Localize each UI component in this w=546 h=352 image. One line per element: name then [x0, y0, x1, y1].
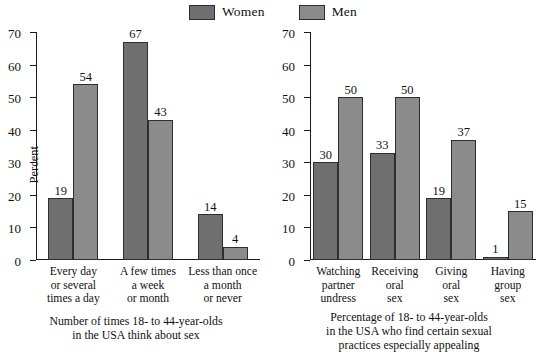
- bar-groups-left: 19546743144: [36, 32, 260, 260]
- category-label-line: Having: [481, 265, 536, 279]
- category-label-line: undress: [311, 292, 366, 306]
- bar-group: 1954: [36, 32, 111, 260]
- bar-women[interactable]: 33: [370, 153, 395, 260]
- bar-value-label: 37: [458, 126, 471, 139]
- bar-value-label: 19: [433, 185, 446, 198]
- bar-slot-women: 67: [123, 32, 148, 260]
- bar-value-label: 14: [204, 201, 217, 214]
- bar-group: 115: [480, 32, 537, 260]
- category-labels-left: Every dayor severaltimes a dayA few time…: [36, 265, 260, 306]
- bar-value-label: 43: [154, 106, 167, 119]
- category-label-line: Every day: [37, 265, 110, 279]
- bar-women[interactable]: 30: [313, 162, 338, 260]
- bar-slot-men: 50: [338, 32, 363, 260]
- bar-slot-men: 37: [451, 32, 476, 260]
- bar-group: 1937: [423, 32, 480, 260]
- y-axis-tick-label: 0: [289, 255, 296, 268]
- caption-line-1: Number of times 18- to 44-year-olds: [8, 314, 264, 328]
- bar-women[interactable]: 67: [123, 42, 148, 260]
- category-label: A few timesa weekor month: [111, 265, 186, 306]
- bar-value-label: 50: [345, 84, 358, 97]
- bar-value-label: 1: [492, 243, 498, 256]
- category-label-line: times a day: [37, 292, 110, 306]
- category-label-line: a month: [186, 279, 259, 293]
- category-label-line: sex: [424, 292, 479, 306]
- bar-men[interactable]: 50: [338, 97, 363, 260]
- bar-value-label: 4: [232, 233, 238, 246]
- bar-women[interactable]: 14: [198, 214, 223, 260]
- y-axis-tick-label: 20: [282, 189, 295, 202]
- bar-group: 3050: [310, 32, 367, 260]
- legend-swatch-women-icon: [189, 5, 215, 20]
- panel-caption-right: Percentage of 18- to 44-year-olds in the…: [272, 310, 546, 352]
- category-label-line: Less than once: [186, 265, 259, 279]
- bar-men[interactable]: 37: [451, 140, 476, 261]
- bar-group: 3350: [367, 32, 424, 260]
- y-axis-tick-label: 50: [282, 92, 295, 105]
- category-label-line: A few times: [112, 265, 185, 279]
- bar-slot-men: 4: [223, 32, 248, 260]
- bar-slot-men: 50: [395, 32, 420, 260]
- bar-slot-women: 30: [313, 32, 338, 260]
- bar-group: 144: [185, 32, 260, 260]
- plot-area-left: Percent 706050403020100 19546743144: [36, 32, 260, 260]
- category-label-line: or month: [112, 292, 185, 306]
- chart-legend: Women Men: [0, 2, 546, 22]
- category-label-line: Receiving: [368, 265, 423, 279]
- bar-women[interactable]: 1: [483, 257, 508, 260]
- bar-group: 6743: [111, 32, 186, 260]
- category-label-line: group: [481, 279, 536, 293]
- bar-slot-men: 43: [148, 32, 173, 260]
- y-axis-tick-label: 50: [8, 92, 21, 105]
- legend-swatch-men-icon: [299, 5, 325, 20]
- y-axis-tick-label: 0: [15, 255, 22, 268]
- y-axis-tick-label: 20: [8, 189, 21, 202]
- caption-line-1: Percentage of 18- to 44-year-olds: [280, 310, 538, 324]
- bar-men[interactable]: 43: [148, 120, 173, 260]
- bar-value-label: 67: [129, 28, 142, 41]
- y-axis-tick-label: 10: [8, 222, 21, 235]
- panel-caption-left: Number of times 18- to 44-year-olds in t…: [0, 314, 272, 342]
- bar-slot-women: 1: [483, 32, 508, 260]
- bar-men[interactable]: 15: [508, 211, 533, 260]
- category-label-line: oral: [424, 279, 479, 293]
- y-axis-tick-label: 60: [8, 59, 21, 72]
- bar-groups-right: 305033501937115: [310, 32, 536, 260]
- category-label-line: sex: [368, 292, 423, 306]
- y-axis-tick-label: 10: [282, 222, 295, 235]
- bar-value-label: 33: [376, 139, 389, 152]
- bar-women[interactable]: 19: [48, 198, 73, 260]
- category-label: Givingoralsex: [423, 265, 480, 306]
- y-axis-tick: 0: [30, 260, 36, 261]
- category-label-line: oral: [368, 279, 423, 293]
- y-axis-tick-label: 40: [8, 124, 21, 137]
- y-axis-tick: 0: [304, 260, 310, 261]
- bar-slot-men: 54: [73, 32, 98, 260]
- category-label: Havinggroupsex: [480, 265, 537, 306]
- bar-men[interactable]: 54: [73, 84, 98, 260]
- y-axis-tick-label: 70: [282, 27, 295, 40]
- legend-item-men: Men: [299, 4, 357, 20]
- plot-area-right: 706050403020100 305033501937115: [310, 32, 536, 260]
- bar-value-label: 19: [55, 185, 68, 198]
- category-label: Less than oncea monthor never: [185, 265, 260, 306]
- legend-label-women: Women: [222, 4, 265, 20]
- category-label: Every dayor severaltimes a day: [36, 265, 111, 306]
- category-label-line: or never: [186, 292, 259, 306]
- bar-women[interactable]: 19: [426, 198, 451, 260]
- y-axis-tick-label: 30: [282, 157, 295, 170]
- bar-slot-women: 33: [370, 32, 395, 260]
- y-axis-tick-label: 30: [8, 157, 21, 170]
- category-label: Watchingpartnerundress: [310, 265, 367, 306]
- bar-slot-women: 19: [48, 32, 73, 260]
- y-axis-tick-label: 60: [282, 59, 295, 72]
- chart-panel-left: Percent 706050403020100 19546743144 Ever…: [0, 22, 272, 348]
- legend-label-men: Men: [332, 4, 357, 20]
- bar-men[interactable]: 50: [395, 97, 420, 260]
- caption-line-3: practices especially appealing: [280, 338, 538, 352]
- category-label-line: a week: [112, 279, 185, 293]
- bar-slot-men: 15: [508, 32, 533, 260]
- bar-men[interactable]: 4: [223, 247, 248, 260]
- caption-line-2: in the USA think about sex: [8, 328, 264, 342]
